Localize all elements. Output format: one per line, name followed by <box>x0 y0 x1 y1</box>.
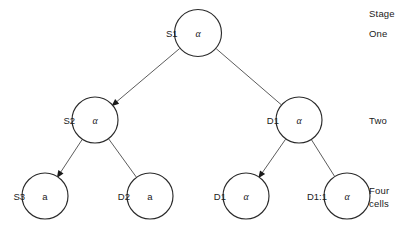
edge-line <box>109 139 136 177</box>
stage-label-2: Four <box>369 185 389 196</box>
stage-column-header: Stage <box>369 8 395 19</box>
node-symbol: α <box>296 115 302 126</box>
edge-S1-to-S2 <box>111 48 179 106</box>
edge-line <box>216 49 281 105</box>
lineage-tree-canvas: αS1αS2αD1aS3aD2αD1αD1:1 Stage OneTwoFour… <box>0 0 414 225</box>
node-symbol: a <box>42 191 48 202</box>
node-label: S3 <box>13 191 25 202</box>
edge-D1-to-D1b <box>258 139 285 178</box>
node-D1[interactable]: αD1 <box>267 97 322 143</box>
nodes-group: αS1αS2αD1aS3aD2αD1αD1:1 <box>13 10 370 220</box>
stage-column: Stage OneTwoFourcells <box>369 8 395 209</box>
node-label: D2 <box>118 191 130 202</box>
node-S2[interactable]: αS2 <box>63 97 118 143</box>
node-S1[interactable]: αS1 <box>166 10 222 57</box>
node-label: D1 <box>267 115 279 126</box>
node-symbol: α <box>344 191 350 202</box>
node-symbol: α <box>195 28 201 39</box>
stage-label-1: Two <box>369 115 387 126</box>
edge-D1-to-D1:1 <box>312 140 335 176</box>
stage-label-3: cells <box>369 198 389 209</box>
node-symbol: α <box>92 115 98 126</box>
edge-S2-to-S3 <box>57 140 82 178</box>
node-D1:1[interactable]: αD1:1 <box>307 173 370 219</box>
node-label: D1:1 <box>307 191 327 202</box>
stage-label-0: One <box>369 28 388 39</box>
node-symbol: a <box>147 191 153 202</box>
node-label: S2 <box>63 115 75 126</box>
edge-S2-to-D2 <box>109 139 136 177</box>
cell-lineage-diagram: αS1αS2αD1aS3aD2αD1αD1:1 Stage OneTwoFour… <box>0 0 414 225</box>
node-label: D1 <box>214 191 226 202</box>
node-D2[interactable]: aD2 <box>118 173 173 219</box>
edge-line <box>111 48 179 106</box>
node-S3[interactable]: aS3 <box>13 173 68 219</box>
node-label: S1 <box>166 28 178 39</box>
edge-line <box>312 140 335 176</box>
node-D1b[interactable]: αD1 <box>214 173 269 219</box>
edge-S1-to-D1 <box>216 49 281 105</box>
node-symbol: α <box>243 191 249 202</box>
